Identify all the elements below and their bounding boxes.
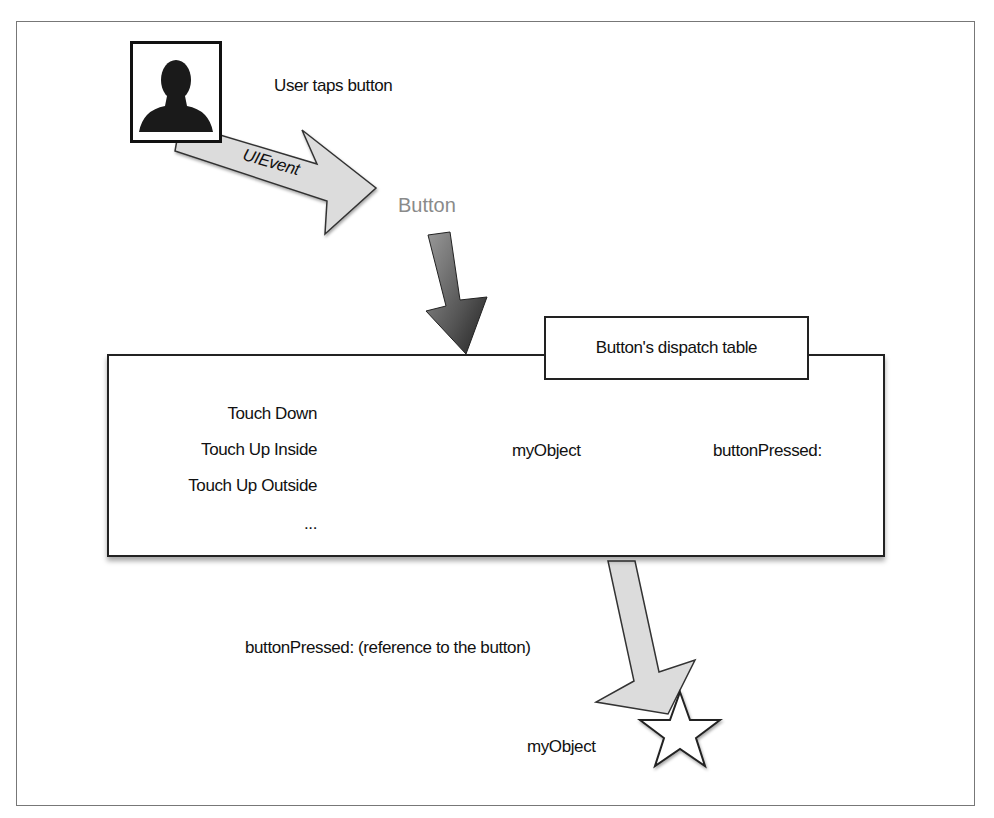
dispatch-table-title-text: Button's dispatch table <box>596 338 757 358</box>
event-list: Touch Down Touch Up Inside Touch Up Outs… <box>150 404 317 544</box>
event-touch-up-outside: Touch Up Outside <box>188 476 317 496</box>
event-touch-up-inside: Touch Up Inside <box>201 440 317 460</box>
target-label: myObject <box>512 441 581 461</box>
user-caption: User taps button <box>274 76 392 96</box>
button-to-table-arrow <box>426 232 487 354</box>
receiver-label: myObject <box>527 737 596 757</box>
event-more: ... <box>304 514 317 534</box>
user-avatar <box>130 41 222 143</box>
user-silhouette-icon <box>133 44 219 140</box>
event-touch-down: Touch Down <box>227 404 317 424</box>
action-label: buttonPressed: <box>713 441 822 461</box>
button-label: Button <box>398 194 456 217</box>
message-label: buttonPressed: (reference to the button) <box>245 638 530 658</box>
dispatch-table-title: Button's dispatch table <box>544 316 809 380</box>
